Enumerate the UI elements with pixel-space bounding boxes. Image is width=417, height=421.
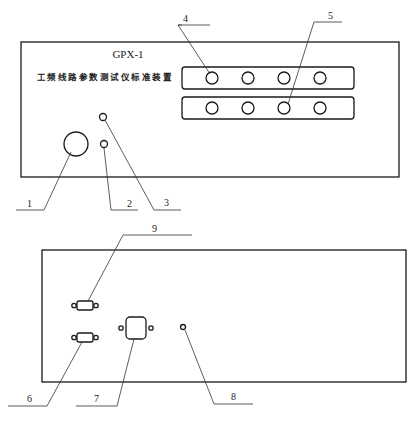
leader-line-5 — [288, 22, 342, 104]
indicator-lower-icon — [101, 141, 108, 148]
serial-port-upper-icon — [72, 301, 98, 310]
leader-line-1 — [16, 152, 71, 210]
model-label: GPX-1 — [98, 48, 158, 60]
jack-strip-bottom — [182, 97, 354, 119]
jack-icon — [206, 102, 218, 114]
knob-icon — [64, 132, 88, 156]
callout-4: 4 — [183, 13, 188, 24]
power-socket-icon — [119, 317, 153, 339]
leader-line-2 — [104, 148, 138, 210]
jack-icon — [314, 102, 326, 114]
rear-panel — [42, 250, 406, 382]
device-panel-diagram — [0, 0, 417, 421]
callout-3: 3 — [164, 197, 169, 208]
jack-icon — [314, 72, 326, 84]
callout-9: 9 — [152, 223, 157, 234]
jack-icon — [206, 72, 218, 84]
callout-1: 1 — [27, 198, 32, 209]
jack-icon — [242, 72, 254, 84]
device-title: 工频线路参数测试仪标准装置 — [30, 70, 180, 82]
leader-line-6 — [8, 342, 82, 406]
callout-8: 8 — [231, 391, 236, 402]
leader-line-7 — [76, 339, 134, 406]
jack-icon — [278, 72, 290, 84]
serial-port-lower-icon — [72, 333, 98, 342]
callout-6: 6 — [27, 393, 32, 404]
jack-row-top — [206, 72, 326, 84]
callout-7: 7 — [94, 393, 99, 404]
indicator-upper-icon — [100, 114, 107, 121]
callout-2: 2 — [127, 198, 132, 209]
leader-line-8 — [185, 330, 253, 404]
front-panel — [21, 42, 399, 177]
callout-5: 5 — [328, 10, 333, 21]
ground-terminal-icon — [181, 325, 186, 330]
jack-icon — [242, 102, 254, 114]
leader-line-9 — [88, 235, 192, 301]
leader-line-3 — [105, 120, 181, 210]
jack-row-bottom — [206, 102, 326, 114]
